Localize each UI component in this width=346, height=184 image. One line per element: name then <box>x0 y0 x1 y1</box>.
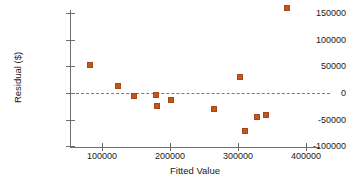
data-point <box>87 62 93 68</box>
data-point <box>254 114 260 120</box>
x-axis-title: Fitted Value <box>70 165 320 176</box>
data-point <box>242 128 248 134</box>
y-tick-mark <box>66 40 75 41</box>
y-axis-title: Residual ($) <box>12 33 23 123</box>
data-point <box>168 97 174 103</box>
y-tick-label: 100000 <box>288 36 346 45</box>
y-tick-mark <box>66 120 75 121</box>
data-point <box>154 103 160 109</box>
y-tick-label: 0 <box>288 89 346 98</box>
x-tick-label: 400000 <box>276 152 336 161</box>
y-tick-mark <box>66 93 75 94</box>
y-tick-label: 50000 <box>288 62 346 71</box>
y-tick-mark <box>66 66 75 67</box>
data-point <box>115 83 121 89</box>
data-point <box>263 112 269 118</box>
scatter-plot: -100000-50000050000100000150000 10000020… <box>0 0 346 184</box>
data-point <box>237 74 243 80</box>
x-tick-mark <box>238 143 239 151</box>
x-tick-mark <box>102 143 103 151</box>
y-axis-line <box>70 10 71 148</box>
x-tick-label: 100000 <box>72 152 132 161</box>
y-tick-label: 150000 <box>288 9 346 18</box>
data-point <box>131 93 137 99</box>
x-tick-mark <box>170 143 171 151</box>
x-tick-label: 200000 <box>140 152 200 161</box>
y-tick-label: -50000 <box>288 116 346 125</box>
data-point <box>284 5 290 11</box>
data-point <box>153 92 159 98</box>
y-tick-label: -100000 <box>288 142 346 151</box>
data-point <box>211 106 217 112</box>
y-tick-mark <box>66 146 75 147</box>
x-axis-line <box>70 147 320 148</box>
x-tick-mark <box>306 143 307 151</box>
x-tick-label: 300000 <box>208 152 268 161</box>
y-tick-mark <box>66 13 75 14</box>
